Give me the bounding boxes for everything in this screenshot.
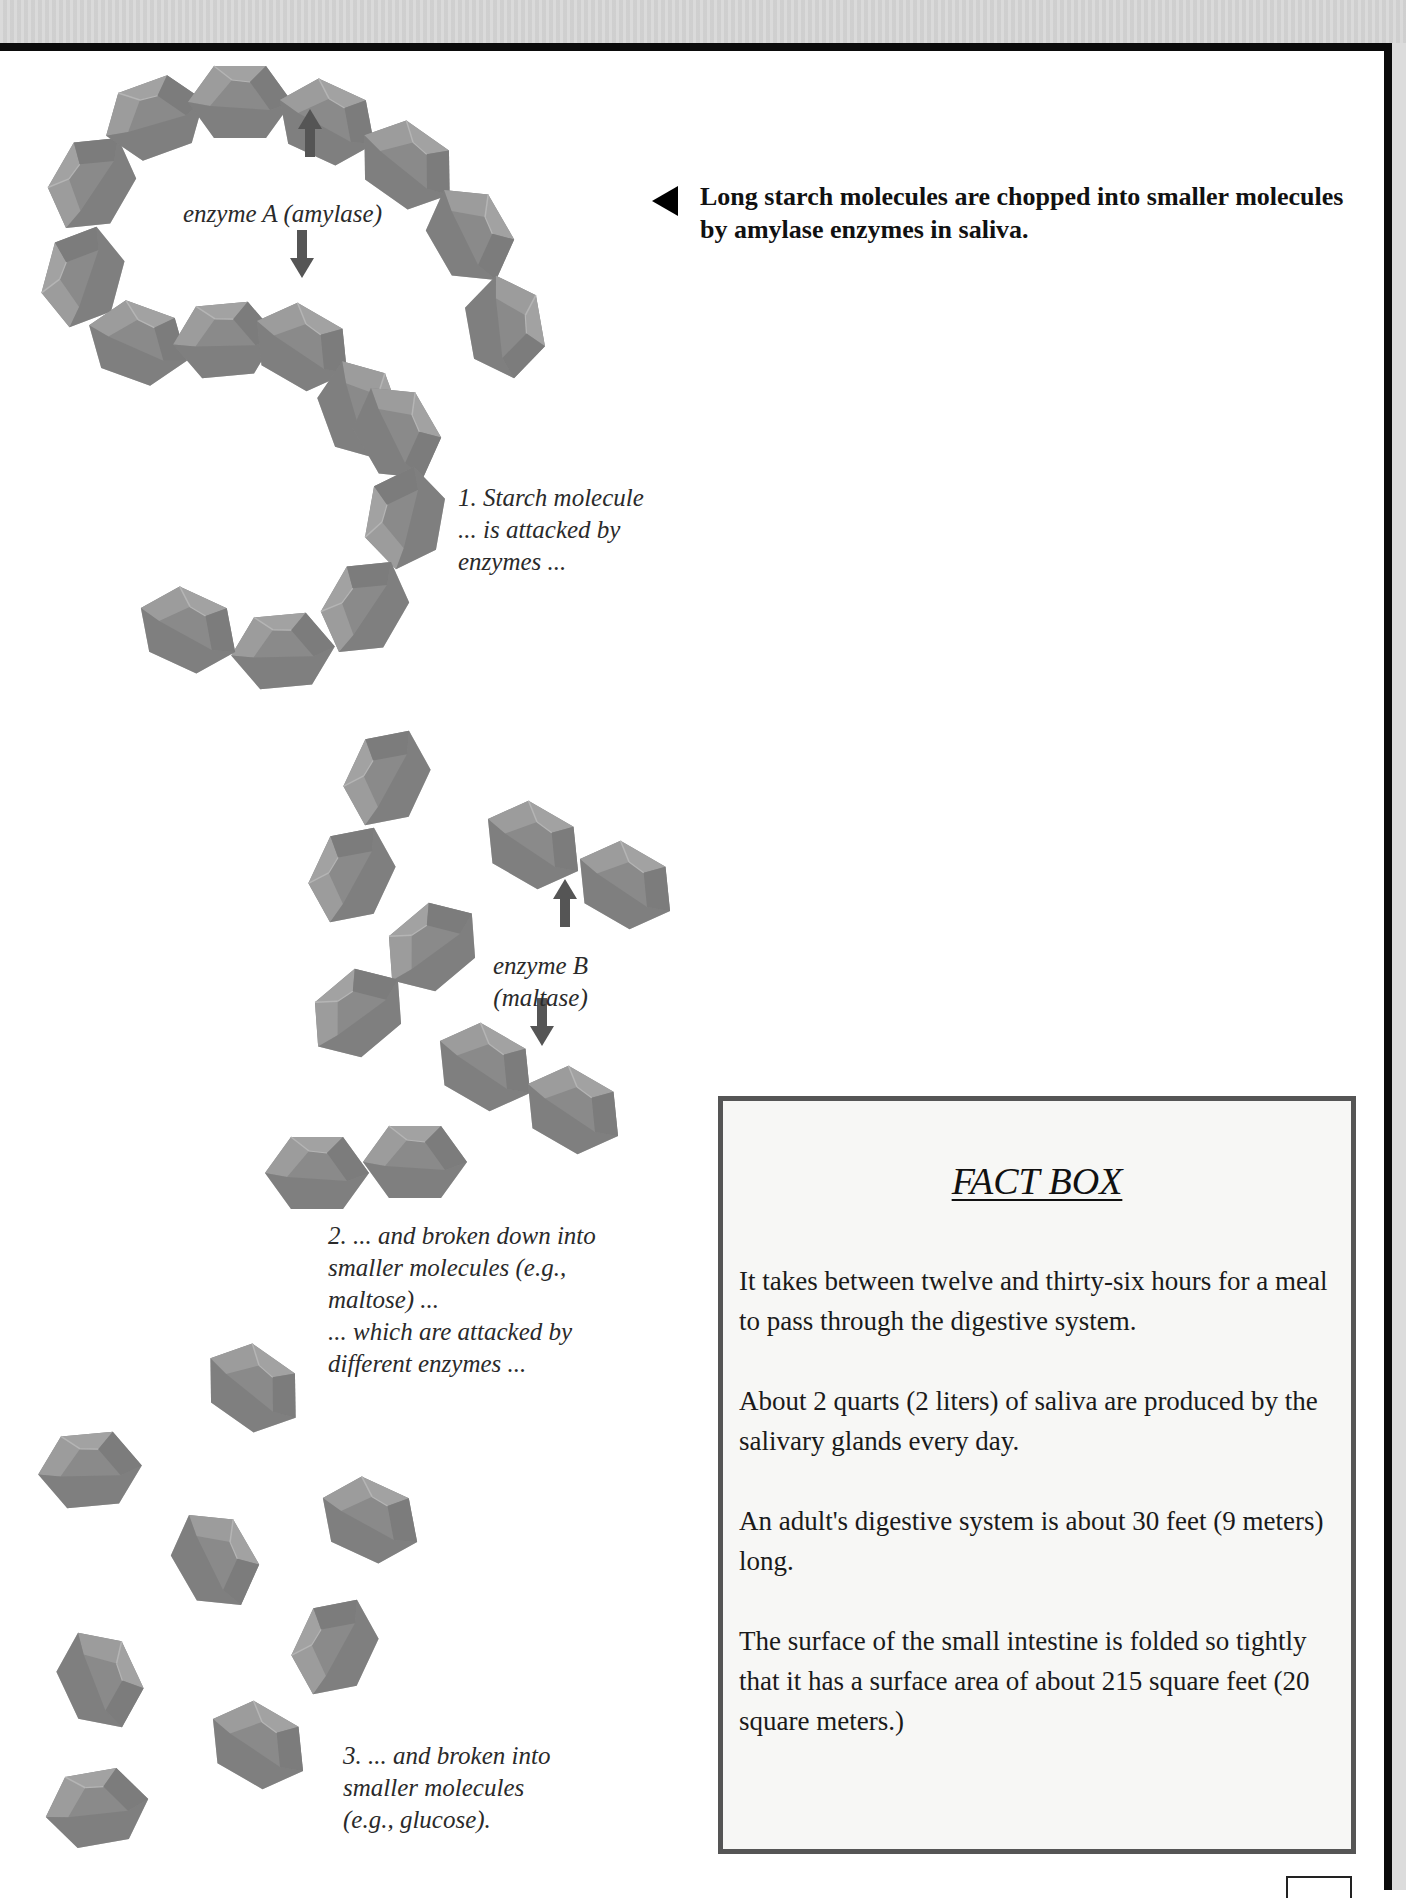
enzyme-a-label: enzyme A (amylase) bbox=[183, 198, 382, 230]
enzyme-b-up-arrow-icon bbox=[553, 879, 577, 927]
glucose-unit-hexagon-icon bbox=[35, 1430, 145, 1511]
fact-item: The surface of the small intestine is fo… bbox=[739, 1621, 1339, 1741]
fact-box-title: FACT BOX bbox=[723, 1159, 1351, 1203]
step-1-label: 1. Starch molecule ... is attacked by en… bbox=[458, 482, 644, 578]
glucose-unit-hexagon-icon bbox=[562, 828, 688, 942]
glucose-unit-hexagon-icon bbox=[297, 813, 406, 938]
fact-item: About 2 quarts (2 liters) of saliva are … bbox=[739, 1381, 1339, 1461]
glucose-unit-hexagon-icon bbox=[195, 1688, 321, 1802]
step-2-label: 2. ... and broken down into smaller mole… bbox=[328, 1220, 596, 1380]
glucose-unit-hexagon-icon bbox=[363, 1126, 467, 1198]
glucose-unit-hexagon-icon bbox=[470, 788, 596, 902]
fact-item: An adult's digestive system is about 30 … bbox=[739, 1501, 1339, 1581]
glucose-unit-hexagon-icon bbox=[190, 1329, 316, 1448]
caption-text: Long starch molecules are chopped into s… bbox=[700, 180, 1360, 246]
left-triangle-icon bbox=[652, 186, 678, 216]
glucose-unit-hexagon-icon bbox=[332, 716, 441, 841]
glucose-unit-hexagon-icon bbox=[461, 270, 550, 385]
glucose-unit-hexagon-icon bbox=[308, 1465, 433, 1574]
glucose-unit-hexagon-icon bbox=[158, 1497, 272, 1623]
glucose-unit-hexagon-icon bbox=[45, 1618, 154, 1743]
starch-molecule-chain bbox=[35, 66, 550, 691]
glucose-unit-hexagon-icon bbox=[510, 1053, 636, 1167]
fact-box: FACT BOX It takes between twelve and thi… bbox=[718, 1096, 1356, 1854]
glucose-unit-hexagon-icon bbox=[422, 1010, 548, 1124]
enzyme-a-down-arrow-icon bbox=[290, 230, 314, 278]
enzyme-b-label: enzyme B (maltase) bbox=[493, 950, 588, 1014]
page-number-box bbox=[1286, 1876, 1352, 1898]
glucose-unit-hexagon-icon bbox=[40, 1764, 155, 1853]
fact-list: It takes between twelve and thirty-six h… bbox=[739, 1261, 1339, 1781]
glucose-unit-hexagon-icon bbox=[188, 66, 292, 138]
glucose-unit-hexagon-icon bbox=[280, 1585, 389, 1710]
maltose-molecules bbox=[265, 716, 688, 1209]
glucose-unit-hexagon-icon bbox=[126, 575, 251, 684]
glucose-unit-hexagon-icon bbox=[228, 611, 338, 692]
fact-item: It takes between twelve and thirty-six h… bbox=[739, 1261, 1339, 1341]
glucose-unit-hexagon-icon bbox=[361, 461, 450, 576]
glucose-unit-hexagon-icon bbox=[265, 1137, 369, 1209]
step-3-label: 3. ... and broken into smaller molecules… bbox=[343, 1740, 550, 1836]
